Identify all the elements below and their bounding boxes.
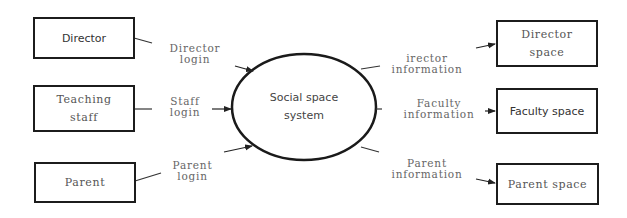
teaching-staff-label-line1: Teaching [56,92,111,107]
process-label: Social space system [254,89,354,125]
faculty-space-entity: Faculty space [496,88,598,134]
teaching-staff-label-line2: staff [70,110,98,125]
faculty-space-label: Faculty space [510,105,585,118]
faculty-info-label: Faculty information [396,98,482,120]
director-entity: Director [33,17,135,59]
teaching-staff-entity: Teaching staff [33,85,135,132]
parent-space-arrow [476,179,495,183]
director-info-connector [361,66,380,69]
director-login-label: Director login [160,43,230,65]
parent-connector-left [135,173,161,181]
staff-login-label: Staff login [160,96,210,118]
director-connector-left [134,38,152,43]
director-space-label-line1: Director [521,27,572,42]
director-space-label-line2: space [530,45,565,60]
parent-login-arrow [224,146,252,152]
parent-info-connector [361,147,379,152]
parent-space-entity: Parent space [496,163,599,205]
parent-space-label: Parent space [508,177,587,192]
parent-entity: Parent [34,162,136,203]
director-space-entity: Director space [496,20,598,67]
director-info-label: irector information [384,53,470,75]
director-login-arrow [235,66,253,71]
director-space-arrow [476,44,495,48]
parent-info-label: Parent information [384,158,470,180]
diagram-canvas: Director Teaching staff Parent Director … [0,0,627,218]
parent-entity-label: Parent [65,175,105,190]
parent-login-label: Parent login [165,160,220,182]
director-entity-label: Director [62,32,106,45]
